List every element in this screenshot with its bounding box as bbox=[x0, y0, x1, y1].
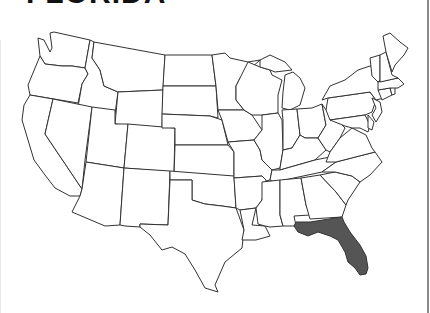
us-map bbox=[0, 0, 430, 313]
state-colorado bbox=[124, 124, 175, 172]
state-new-mexico bbox=[120, 168, 170, 227]
state-north-dakota bbox=[163, 55, 216, 86]
state-washington bbox=[38, 32, 90, 68]
state-wyoming bbox=[115, 90, 163, 128]
state-new-jersey bbox=[372, 98, 382, 122]
state-florida bbox=[294, 217, 368, 275]
state-south-dakota bbox=[162, 86, 218, 118]
